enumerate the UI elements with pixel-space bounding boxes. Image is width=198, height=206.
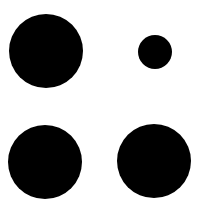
dot-top-left [9,14,83,88]
dot-top-right-small [138,35,172,69]
dot-bottom-left [8,125,82,199]
dot-bottom-right [117,124,191,198]
dot-grid-canvas [0,0,198,206]
